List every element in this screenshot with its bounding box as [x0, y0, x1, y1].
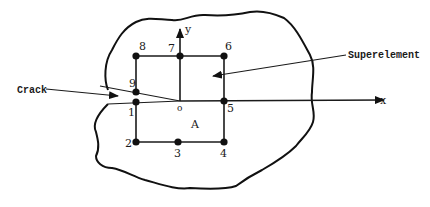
node-label-4: 4 — [220, 147, 227, 160]
x-axis-label: x — [380, 94, 387, 107]
node-8 — [132, 52, 139, 59]
crack-label: Crack — [17, 85, 47, 96]
node-1 — [132, 98, 139, 105]
node-6 — [220, 52, 227, 59]
node-2 — [132, 138, 139, 145]
node-label-6: 6 — [225, 40, 232, 53]
crack-lower-face — [108, 101, 180, 104]
superelement-label: Superelement — [348, 50, 420, 61]
node-label-5: 5 — [227, 102, 234, 115]
node-label-2: 2 — [125, 137, 132, 150]
y-axis-label: y — [184, 23, 192, 36]
node-label-9: 9 — [129, 77, 136, 90]
node-label-1: 1 — [128, 106, 135, 119]
node-label-8: 8 — [139, 40, 146, 53]
node-label-3: 3 — [174, 147, 181, 160]
x-axis — [180, 100, 384, 101]
node-3 — [174, 138, 181, 145]
crack-upper-face — [100, 86, 180, 101]
superelement-leader — [213, 55, 346, 76]
node-4 — [220, 138, 227, 145]
node-7 — [176, 52, 183, 59]
origin-label: o — [177, 103, 182, 113]
superelement-diagram: 1 2 3 4 5 6 7 8 9 y x o A Crack Superele… — [0, 0, 430, 207]
node-label-7: 7 — [168, 42, 175, 55]
region-label: A — [190, 118, 200, 131]
